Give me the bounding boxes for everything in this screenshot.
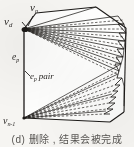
diagram-svg: [0, 0, 134, 132]
apex-vertex-marker: [22, 27, 29, 32]
label-edge-ep: ep: [12, 53, 19, 63]
label-vertex-vd: vd: [4, 16, 12, 27]
figure-page: vn vd ep ep pair vn-1 (d) 删除 , 结果会被完成: [0, 0, 134, 147]
label-eppair-suffix: pair: [37, 71, 54, 81]
figure-caption: (d) 删除 , 结果会被完成: [0, 131, 134, 147]
bottom-vertex-marker: [22, 116, 25, 119]
label-vd-sub: d: [9, 21, 12, 28]
label-vn1-sub: n-1: [7, 120, 15, 127]
label-vertex-vn: vn: [30, 2, 38, 13]
label-vn-sub: n: [35, 7, 38, 14]
label-ep-sub: p: [16, 57, 19, 63]
triangle-fan-diagram: vn vd ep ep pair vn-1: [0, 0, 134, 132]
label-vertex-vn-minus-1: vn-1: [3, 116, 15, 126]
label-eppair-sub: p: [34, 76, 37, 82]
label-edge-ep-pair: ep pair: [30, 72, 54, 81]
